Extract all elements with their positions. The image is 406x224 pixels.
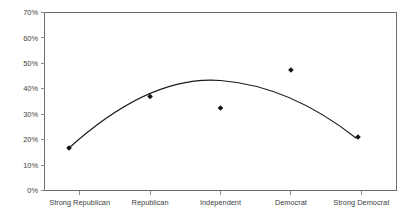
y-tick-label: 40% bbox=[23, 84, 38, 93]
y-tick-label: 20% bbox=[23, 135, 38, 144]
x-tick-label-republican: Republican bbox=[132, 198, 169, 207]
x-tick-label-democrat: Democrat bbox=[275, 198, 307, 207]
x-tick-label-strong-democrat: Strong Democrat bbox=[333, 198, 389, 207]
y-tick-label: 50% bbox=[23, 59, 38, 68]
y-tick-label: 30% bbox=[23, 110, 38, 119]
y-tick-label: 10% bbox=[23, 161, 38, 170]
y-tick-label: 70% bbox=[23, 8, 38, 17]
scatter-plot-svg: 70% 60% 50% 40% 30% 20% 10% 0% Strong Re… bbox=[0, 0, 406, 224]
x-tick-label-independent: Independent bbox=[200, 198, 241, 207]
y-tick-label: 60% bbox=[23, 34, 38, 43]
chart-container: 70% 60% 50% 40% 30% 20% 10% 0% Strong Re… bbox=[0, 0, 406, 224]
y-tick-label: 0% bbox=[27, 186, 38, 195]
x-tick-label-strong-republican: Strong Republican bbox=[49, 198, 110, 207]
